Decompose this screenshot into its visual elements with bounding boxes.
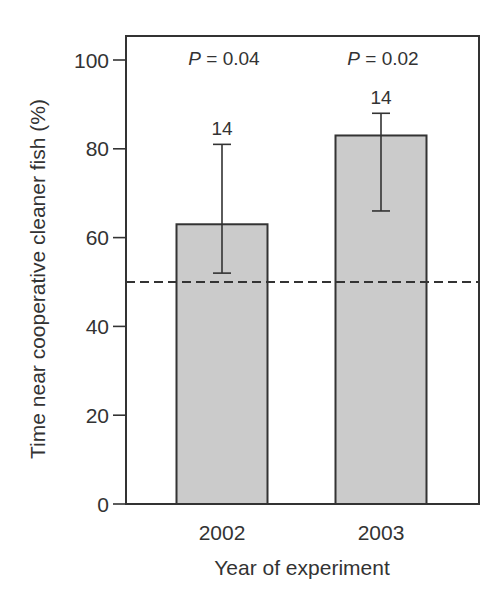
x-axis: 20022003 (199, 521, 405, 544)
p-symbol: P (347, 48, 360, 69)
annotations: P = 0.04P = 0.02 (188, 48, 418, 69)
p-value-annotation: P = 0.04 (188, 48, 260, 69)
x-category-label: 2003 (358, 521, 405, 544)
y-axis-label: Time near cooperative cleaner fish (%) (26, 99, 49, 459)
x-category-label: 2002 (199, 521, 246, 544)
y-tick-label: 80 (86, 137, 109, 160)
x-axis-label: Year of experiment (214, 556, 390, 579)
y-tick-label: 40 (86, 315, 109, 338)
sample-size-label: 14 (211, 118, 233, 139)
sample-size-label: 14 (370, 87, 392, 108)
y-tick-label: 20 (86, 404, 109, 427)
p-value: = 0.04 (201, 48, 260, 69)
y-tick-label: 0 (97, 493, 109, 516)
bars (126, 135, 479, 504)
p-symbol: P (188, 48, 201, 69)
y-tick-label: 60 (86, 226, 109, 249)
y-tick-label: 100 (74, 49, 109, 72)
p-value: = 0.02 (360, 48, 419, 69)
bar-chart: 1414 020406080100 20022003 P = 0.04P = 0… (0, 0, 502, 611)
y-axis: 020406080100 (74, 49, 126, 516)
p-value-annotation: P = 0.02 (347, 48, 418, 69)
